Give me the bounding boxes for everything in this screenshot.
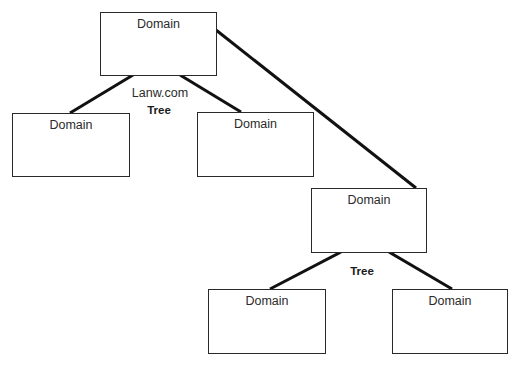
domain-box-label: Domain — [101, 17, 216, 31]
connector-tree2-root-to-right-child — [389, 252, 452, 289]
connector-tree2-root-to-left-child — [270, 252, 341, 289]
tree1-domain-name-label: Lanw.com — [132, 86, 188, 100]
domain-box-label: Domain — [393, 294, 507, 308]
connector-tree1-root-to-right-child — [180, 75, 241, 112]
tree2-tree-label: Tree — [350, 265, 374, 277]
tree1-left-child-domain-box: Domain — [12, 113, 130, 177]
tree1-right-child-domain-box: Domain — [197, 112, 314, 177]
tree1-root-domain-box: Domain — [100, 12, 217, 76]
domain-tree-diagram: Domain Lanw.com Tree Domain Domain Domai… — [0, 0, 516, 367]
domain-box-label: Domain — [209, 294, 325, 308]
domain-box-label: Domain — [13, 118, 129, 132]
domain-box-label: Domain — [198, 117, 313, 131]
connector-tree1-root-to-left-child — [70, 75, 133, 113]
tree2-right-child-domain-box: Domain — [392, 289, 508, 354]
domain-box-label: Domain — [312, 193, 426, 207]
tree2-root-domain-box: Domain — [311, 188, 427, 253]
tree1-tree-label: Tree — [147, 104, 171, 116]
tree2-left-child-domain-box: Domain — [208, 289, 326, 354]
